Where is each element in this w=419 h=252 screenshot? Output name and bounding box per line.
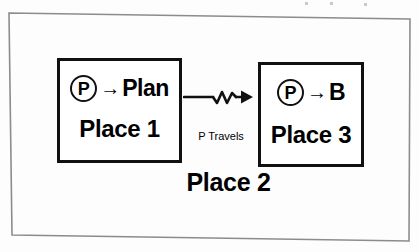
place-3-box: P → B Place 3 <box>258 62 364 167</box>
place-3-name-row: Place 3 <box>261 123 361 147</box>
scan-speckle <box>305 2 308 5</box>
squiggle-arrow-icon <box>183 86 259 112</box>
place-3-target-label: B <box>329 81 345 104</box>
place-3-label: Place 3 <box>271 123 352 147</box>
place-1-name-row: Place 1 <box>60 117 179 141</box>
place-1-box: P → Plan Place 1 <box>57 58 182 163</box>
travel-caption: P Travels <box>183 131 259 142</box>
scan-speckle <box>330 2 333 5</box>
circled-p-icon: P <box>70 75 97 102</box>
place-3-transition-row: P → B <box>261 79 361 106</box>
place-1-transition-row: P → Plan <box>60 75 179 102</box>
right-arrow-icon: → <box>307 82 327 102</box>
figure-canvas: P → Plan Place 1 P Travels P → B Place 3… <box>0 0 419 252</box>
circled-p-icon: P <box>277 79 304 106</box>
place-1-target-label: Plan <box>122 77 169 100</box>
place-1-label: Place 1 <box>79 117 160 141</box>
figure-caption-place-2: Place 2 <box>0 170 419 195</box>
right-arrow-icon: → <box>100 78 120 98</box>
scan-speckle <box>364 3 367 6</box>
